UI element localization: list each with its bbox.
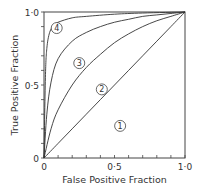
curve-labels: 1234 [51, 23, 125, 132]
y-tick-label-05: 0·5 [25, 81, 39, 91]
curve-label-3: 3 [74, 58, 85, 69]
x-tick-label-05: 0·5 [107, 162, 121, 172]
roc-chart: 1234 1·0 0·5 0 0 0·5 1·0 False Positive … [0, 0, 202, 193]
roc-curves [44, 12, 185, 158]
y-axis-title: True Positive Fraction [9, 35, 20, 137]
x-tick-label-0: 0 [41, 162, 47, 172]
y-tick-label-0: 0 [33, 154, 39, 164]
roc-curve-1 [44, 12, 185, 158]
curve-label-1: 1 [115, 120, 126, 131]
curve-label-4: 4 [51, 23, 62, 34]
y-tick-label-1: 1·0 [25, 8, 40, 18]
svg-text:4: 4 [54, 24, 59, 33]
svg-text:2: 2 [99, 85, 104, 94]
curve-label-2: 2 [96, 84, 107, 95]
x-tick-label-1: 1·0 [178, 162, 193, 172]
svg-text:1: 1 [118, 122, 123, 131]
svg-text:3: 3 [77, 59, 82, 68]
x-axis-title: False Positive Fraction [62, 174, 166, 185]
